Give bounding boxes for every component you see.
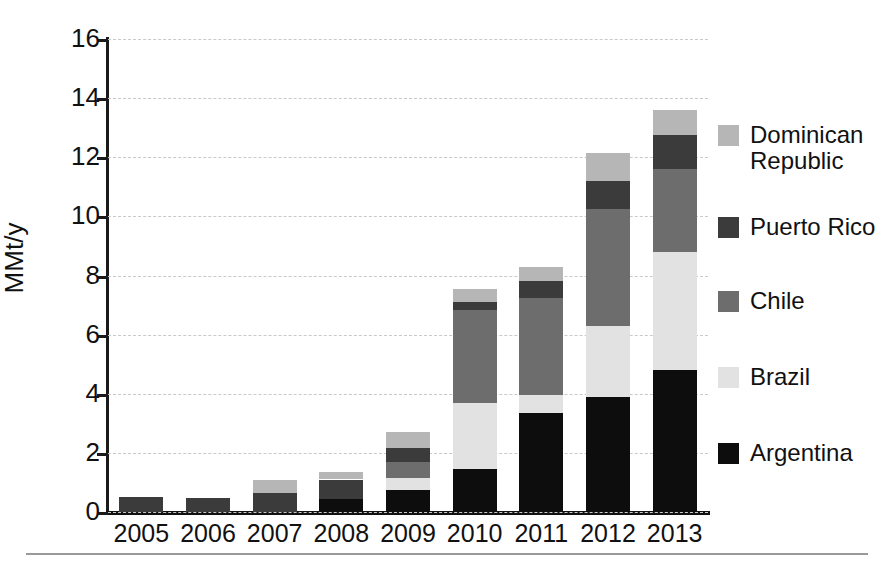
bar-segment-argentina[interactable] bbox=[453, 469, 497, 512]
bar-segment-dominican-republic[interactable] bbox=[653, 110, 697, 135]
bar-segment-brazil[interactable] bbox=[519, 395, 563, 413]
bar-segment-argentina[interactable] bbox=[519, 413, 563, 512]
bar-segment-brazil[interactable] bbox=[386, 478, 430, 490]
legend-item-argentina[interactable]: Argentina bbox=[718, 440, 853, 466]
y-axis-tick-label: 4 bbox=[86, 380, 100, 406]
bar-segment-puerto-rico[interactable] bbox=[519, 281, 563, 297]
legend-item-dominican-republic[interactable]: DominicanRepublic bbox=[718, 122, 863, 174]
legend-label-brazil: Brazil bbox=[750, 364, 810, 390]
bar-segment-chile[interactable] bbox=[453, 310, 497, 403]
legend-label-chile: Chile bbox=[750, 288, 805, 314]
legend-swatch-chile bbox=[718, 291, 739, 312]
legend-label-puerto-rico: Puerto Rico bbox=[750, 214, 875, 240]
bar-2011[interactable] bbox=[519, 39, 563, 512]
plot-area: 0246810121416 bbox=[108, 39, 708, 512]
bar-segment-puerto-rico[interactable] bbox=[453, 302, 497, 309]
legend-item-chile[interactable]: Chile bbox=[718, 288, 805, 314]
y-axis-tick-label: 10 bbox=[71, 202, 100, 228]
bar-segment-dominican-republic[interactable] bbox=[319, 472, 363, 480]
y-axis-tick-label: 0 bbox=[86, 498, 100, 524]
bar-segment-dominican-republic[interactable] bbox=[453, 289, 497, 302]
bar-2012[interactable] bbox=[586, 39, 630, 512]
bar-segment-dominican-republic[interactable] bbox=[519, 267, 563, 282]
y-axis-title: MMt/y bbox=[0, 223, 30, 294]
bar-segment-puerto-rico[interactable] bbox=[186, 498, 230, 512]
x-axis-tick-label: 2011 bbox=[508, 519, 574, 548]
y-axis-tick-label: 6 bbox=[86, 321, 100, 347]
bar-segment-puerto-rico[interactable] bbox=[586, 181, 630, 209]
bar-segment-brazil[interactable] bbox=[586, 326, 630, 397]
legend-item-brazil[interactable]: Brazil bbox=[718, 364, 810, 390]
bar-segment-puerto-rico[interactable] bbox=[653, 135, 697, 169]
x-axis-tick-label: 2005 bbox=[108, 519, 174, 548]
bar-2005[interactable] bbox=[119, 39, 163, 512]
bar-2006[interactable] bbox=[186, 39, 230, 512]
chart-figure: MMt/y 0246810121416 DominicanRepublicPue… bbox=[0, 0, 886, 569]
legend-label-dominican-republic: DominicanRepublic bbox=[750, 122, 863, 174]
bar-segment-dominican-republic[interactable] bbox=[386, 432, 430, 448]
bar-segment-argentina[interactable] bbox=[653, 370, 697, 512]
bar-2013[interactable] bbox=[653, 39, 697, 512]
legend-swatch-argentina bbox=[718, 443, 739, 464]
legend-swatch-brazil bbox=[718, 367, 739, 388]
bar-segment-dominican-republic[interactable] bbox=[253, 480, 297, 493]
y-axis-tick-label: 2 bbox=[86, 439, 100, 465]
bar-segment-puerto-rico[interactable] bbox=[386, 448, 430, 461]
bar-segment-puerto-rico[interactable] bbox=[319, 480, 363, 499]
bar-segment-dominican-republic[interactable] bbox=[586, 153, 630, 181]
bar-segment-chile[interactable] bbox=[519, 298, 563, 396]
bar-segment-chile[interactable] bbox=[653, 169, 697, 252]
bar-segment-chile[interactable] bbox=[386, 462, 430, 478]
x-axis-tick-label: 2012 bbox=[575, 519, 641, 548]
bar-segment-puerto-rico[interactable] bbox=[253, 493, 297, 512]
bar-2010[interactable] bbox=[453, 39, 497, 512]
bar-segment-brazil[interactable] bbox=[653, 252, 697, 370]
x-axis-tick-label: 2013 bbox=[642, 519, 708, 548]
x-axis-tick-label: 2006 bbox=[175, 519, 241, 548]
bar-segment-argentina[interactable] bbox=[586, 397, 630, 512]
y-axis-tick-label: 8 bbox=[86, 261, 100, 287]
bar-segment-chile[interactable] bbox=[586, 209, 630, 326]
bar-segment-brazil[interactable] bbox=[453, 403, 497, 470]
x-axis-tick-label: 2008 bbox=[308, 519, 374, 548]
bar-segment-argentina[interactable] bbox=[386, 490, 430, 512]
figure-bottom-rule bbox=[26, 553, 868, 555]
legend-swatch-puerto-rico bbox=[718, 217, 739, 238]
bar-segment-argentina[interactable] bbox=[319, 499, 363, 512]
y-axis-tick-label: 16 bbox=[71, 25, 100, 51]
x-axis-tick-label: 2007 bbox=[242, 519, 308, 548]
legend-label-argentina: Argentina bbox=[750, 440, 853, 466]
bar-2007[interactable] bbox=[253, 39, 297, 512]
bar-segment-puerto-rico[interactable] bbox=[119, 497, 163, 512]
x-axis-tick-label: 2009 bbox=[375, 519, 441, 548]
y-axis-tick-label: 14 bbox=[71, 84, 100, 110]
bar-2008[interactable] bbox=[319, 39, 363, 512]
x-axis-tick-label: 2010 bbox=[442, 519, 508, 548]
legend-item-puerto-rico[interactable]: Puerto Rico bbox=[718, 214, 875, 240]
y-axis-tick-label: 12 bbox=[71, 143, 100, 169]
bar-2009[interactable] bbox=[386, 39, 430, 512]
gridline bbox=[108, 512, 708, 513]
legend-swatch-dominican-republic bbox=[718, 125, 739, 146]
